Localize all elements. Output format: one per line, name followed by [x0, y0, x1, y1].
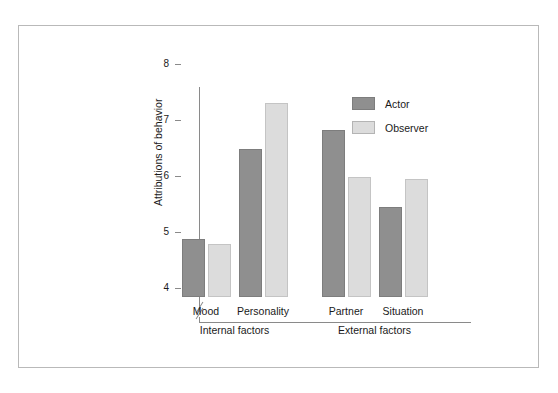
group-label-external: External factors: [338, 324, 411, 336]
chart-legend: Actor Observer: [352, 94, 428, 142]
y-tick-8: [175, 64, 181, 65]
y-tick-label-8: 8: [147, 58, 169, 69]
y-tick-7: [175, 120, 181, 121]
bar-personality-actor: [239, 149, 262, 297]
x-axis-label-personality: Personality: [237, 305, 289, 317]
y-tick-4: [175, 288, 181, 289]
bar-situation-observer: [405, 179, 428, 297]
x-axis-label-partner: Partner: [329, 305, 363, 317]
bar-mood-actor: [182, 239, 205, 297]
y-tick-label-5: 5: [147, 226, 169, 237]
y-tick-5: [175, 232, 181, 233]
y-tick-label-4: 4: [147, 282, 169, 293]
legend-item-observer: Observer: [352, 118, 428, 137]
x-axis-line: [199, 322, 471, 323]
x-axis-label-situation: Situation: [383, 305, 424, 317]
legend-label-observer: Observer: [385, 122, 428, 134]
bar-situation-actor: [379, 207, 402, 297]
y-tick-6: [175, 176, 181, 177]
legend-swatch-actor: [352, 97, 375, 110]
bar-partner-observer: [348, 177, 371, 297]
legend-item-actor: Actor: [352, 94, 428, 113]
group-label-internal: Internal factors: [200, 324, 269, 336]
bar-personality-observer: [265, 103, 288, 297]
legend-label-actor: Actor: [385, 98, 410, 110]
chart-frame: 87654 MoodPersonalityPartnerSituationInt…: [18, 25, 539, 368]
y-axis-title: Attributions of behavior: [152, 99, 164, 206]
bar-mood-observer: [208, 244, 231, 297]
bar-partner-actor: [322, 130, 345, 297]
x-axis-label-mood: Mood: [193, 305, 219, 317]
legend-swatch-observer: [352, 121, 375, 134]
